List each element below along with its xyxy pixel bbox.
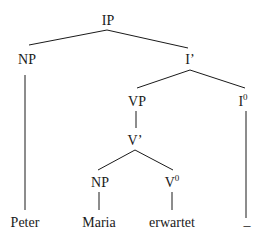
syntax-tree: IP NP I’ VP I0 V’ NP V0 Peter Maria erwa… (0, 0, 262, 238)
node-v-bar: V’ (128, 133, 143, 148)
node-np-object: NP (91, 175, 109, 190)
leaf-maria: Maria (82, 215, 116, 230)
tree-edges (25, 30, 246, 218)
node-i-bar: I’ (185, 52, 194, 67)
node-i-head-superscript: 0 (243, 92, 248, 102)
node-i-head: I0 (238, 92, 248, 109)
node-vp: VP (128, 94, 146, 109)
edge-ip-np (29, 30, 107, 45)
leaf-peter: Peter (11, 215, 40, 230)
node-np-subject: NP (18, 52, 36, 67)
node-v-head: V0 (165, 173, 180, 190)
edge-vbar-np (98, 150, 135, 170)
edge-ibar-vp (137, 70, 190, 88)
node-ip: IP (102, 13, 115, 28)
edge-ip-ibar (107, 30, 188, 48)
node-v-head-superscript: 0 (175, 173, 180, 183)
edge-vbar-v0 (135, 150, 173, 170)
leaf-erwartet: erwartet (149, 215, 195, 230)
node-v-head-label: V (165, 175, 175, 190)
edge-ibar-i0 (190, 70, 245, 88)
leaf-empty: _ (243, 213, 252, 228)
